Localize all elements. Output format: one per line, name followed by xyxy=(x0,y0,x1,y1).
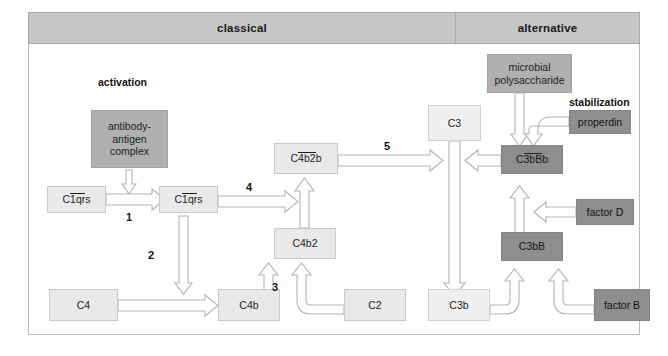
node-c3bb: C3bB xyxy=(501,232,563,261)
arrow-c3-to-c3b xyxy=(444,141,465,296)
c3bbb-prefix: C xyxy=(516,153,524,165)
step-number-5: 5 xyxy=(384,140,390,152)
step-number-1: 1 xyxy=(126,211,132,223)
node-c4b2: C4b2 xyxy=(274,228,336,259)
c1qrs-inactive-overline: 1qr xyxy=(70,193,85,206)
arrow-microbial-to-c3bbb xyxy=(511,93,528,146)
step-number-2: 2 xyxy=(148,249,154,261)
c4b2b-overline: 4b2 xyxy=(298,152,316,165)
arrow-factor-d xyxy=(534,202,576,222)
arrow-properdin-to-c3bbb xyxy=(525,117,569,146)
step-number-3: 3 xyxy=(272,281,278,293)
node-c3bb-label: C3bB xyxy=(519,240,545,253)
node-microbial-line2: polysaccharide xyxy=(494,74,564,87)
c1qrs-active-overline: 1qr xyxy=(182,193,197,206)
node-c3-label: C3 xyxy=(448,117,461,130)
node-factor-b: factor B xyxy=(594,289,650,321)
c3bbb-overline: 3bB xyxy=(524,153,543,166)
node-properdin-label: properdin xyxy=(578,116,622,129)
node-c4b2b: C4b2b xyxy=(274,143,338,174)
node-microbial-line1: microbial xyxy=(508,61,550,74)
c1qrs-inactive-suffix: s xyxy=(85,193,90,205)
c1qrs-active-prefix: C xyxy=(174,193,182,205)
label-activation: activation xyxy=(98,76,147,88)
arrow-step-3-c2 xyxy=(292,263,344,314)
node-factor-d: factor D xyxy=(576,199,634,225)
arrow-antibody-to-c1qrs xyxy=(122,170,136,194)
node-c4b-label: C4b xyxy=(239,299,258,312)
c3bbb-suffix: b xyxy=(542,153,548,165)
node-c1qrs-active: C1qrs xyxy=(159,186,218,213)
arrow-c3bbb-to-c3 xyxy=(465,150,501,171)
node-antibody-antigen-complex: antibody- antigen complex xyxy=(91,110,168,168)
node-c3bbb: C3bBb xyxy=(501,145,563,174)
node-c4-label: C4 xyxy=(77,299,90,312)
step-number-4: 4 xyxy=(246,181,252,193)
node-factor-b-label: factor B xyxy=(604,299,640,312)
node-c4b2b-label: C4b2b xyxy=(291,152,322,165)
c4b2b-suffix: b xyxy=(316,152,322,164)
node-microbial-polysaccharide: microbial polysaccharide xyxy=(487,54,572,93)
node-c1qrs-active-label: C1qrs xyxy=(174,193,202,206)
node-c2-label: C2 xyxy=(368,299,381,312)
figure-canvas: classical alternative xyxy=(0,0,668,356)
node-c3bbb-label: C3bBb xyxy=(516,153,548,166)
node-c3: C3 xyxy=(428,105,481,141)
node-c4: C4 xyxy=(49,289,118,321)
node-c3b: C3b xyxy=(428,289,490,321)
node-properdin: properdin xyxy=(569,110,631,134)
arrow-factor-b-to-c3bb xyxy=(549,269,594,314)
node-c1qrs-inactive-label: C1qrs xyxy=(62,193,90,206)
node-c4b2-label: C4b2 xyxy=(292,237,317,250)
arrow-step-5 xyxy=(338,150,443,171)
node-c3b-label: C3b xyxy=(449,299,468,312)
arrow-step-2 xyxy=(175,216,192,294)
arrow-c4b2-to-c4b2b xyxy=(295,178,314,228)
node-c2: C2 xyxy=(344,289,406,321)
arrow-step-4 xyxy=(218,191,298,212)
label-stabilization: stabilization xyxy=(569,96,630,108)
node-antibody-antigen-line2: antigen xyxy=(112,133,146,146)
c1qrs-active-suffix: s xyxy=(197,193,202,205)
c1qrs-inactive-prefix: C xyxy=(62,193,70,205)
node-antibody-antigen-line3: complex xyxy=(110,145,149,158)
arrow-step-1 xyxy=(106,189,165,210)
node-c4b: C4b xyxy=(218,289,280,321)
node-factor-d-label: factor D xyxy=(587,206,624,219)
c4b2b-prefix: C xyxy=(291,152,299,164)
arrow-c3b-to-c3bb xyxy=(490,269,524,314)
node-antibody-antigen-line1: antibody- xyxy=(108,120,151,133)
node-c1qrs-inactive: C1qrs xyxy=(47,186,106,213)
arrow-c4-to-c4b xyxy=(118,295,218,316)
arrow-c3bb-to-c3bbb xyxy=(510,186,529,236)
